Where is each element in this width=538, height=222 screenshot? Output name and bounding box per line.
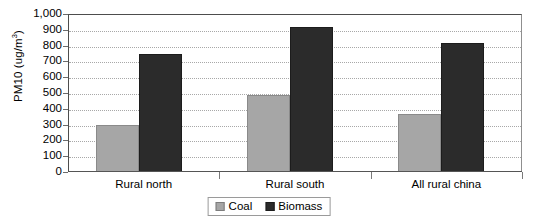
legend-item-biomass[interactable]: Biomass [265,200,322,212]
y-axis-tick-mark [63,156,68,157]
y-axis-tick-mark [63,140,68,141]
y-axis-tick-label: 400 [16,103,62,115]
y-axis-tick-mark [63,109,68,110]
legend-swatch-biomass-icon [265,202,274,211]
y-axis-tick-label: 500 [16,87,62,99]
y-axis-tick-mark [63,77,68,78]
y-axis-tick-label: 300 [16,119,62,131]
y-axis-tick-label: 1,000 [16,8,62,20]
x-axis-label-rural-north: Rural north [68,178,219,190]
bar-biomass-rural-south[interactable] [290,27,333,172]
bar-coal-rural-south[interactable] [247,95,290,172]
y-axis-tick-label: 800 [16,40,62,52]
legend-swatch-coal-icon [216,202,225,211]
legend-label-coal: Coal [229,200,253,212]
x-axis-label-all-rural-china: All rural china [371,178,522,190]
plot-area [68,14,522,172]
y-axis-tick-label: 200 [16,134,62,146]
chart-legend: Coal Biomass [208,197,331,216]
y-axis-tick-mark [63,46,68,47]
y-axis-tick-mark [63,30,68,31]
y-axis-tick-label: 600 [16,71,62,83]
x-axis-tick-mark [522,172,523,179]
y-axis-tick-mark [63,125,68,126]
legend-item-coal[interactable]: Coal [216,200,253,212]
y-axis-tick-label: 900 [16,24,62,36]
y-axis-tick-mark [63,14,68,15]
y-axis-tick-label: 0 [16,166,62,178]
bar-chart: PM10 (ug/m3) 010020030040050060070080090… [0,0,538,222]
bar-coal-all-rural-china[interactable] [398,114,441,172]
y-axis-title: PM10 (ug/m3) [12,0,24,136]
bar-coal-rural-north[interactable] [96,125,139,172]
y-axis-tick-label: 100 [16,150,62,162]
bar-biomass-rural-north[interactable] [139,54,182,173]
x-axis-baseline [68,171,522,172]
legend-label-biomass: Biomass [278,200,322,212]
y-axis-tick-mark [63,172,68,173]
y-axis-tick-label: 700 [16,55,62,67]
y-axis-tick-mark [63,93,68,94]
bar-biomass-all-rural-china[interactable] [441,43,484,172]
x-axis-label-rural-south: Rural south [219,178,370,190]
y-axis-tick-mark [63,61,68,62]
